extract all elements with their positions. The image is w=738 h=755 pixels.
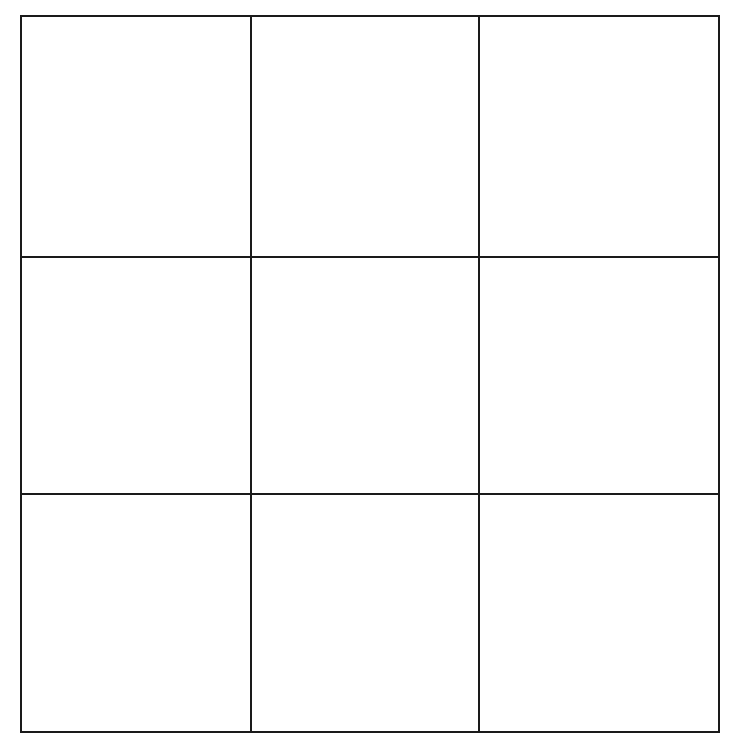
cell-r3-c2[interactable] [252, 495, 478, 731]
cell-r3-c1[interactable] [22, 495, 250, 731]
tic-tac-toe-board [0, 0, 738, 755]
cell-r2-c2[interactable] [252, 258, 478, 493]
border-bottom [21, 731, 720, 733]
cell-r3-c3[interactable] [480, 495, 718, 731]
cell-r2-c3[interactable] [480, 258, 718, 493]
cell-r1-c2[interactable] [252, 17, 478, 256]
cell-r1-c3[interactable] [480, 17, 718, 256]
cell-r1-c1[interactable] [22, 17, 250, 256]
cell-r2-c1[interactable] [22, 258, 250, 493]
border-right [718, 15, 720, 733]
